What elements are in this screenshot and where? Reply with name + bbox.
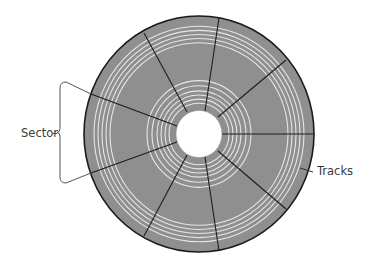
sector-pointer-top bbox=[66, 82, 91, 94]
sector-pointer-bottom bbox=[66, 173, 91, 183]
disk-diagram: Sector Tracks bbox=[0, 0, 366, 269]
sector-label: Sector bbox=[21, 128, 58, 140]
spindle-hole bbox=[176, 110, 222, 157]
tracks-label: Tracks bbox=[317, 166, 353, 178]
